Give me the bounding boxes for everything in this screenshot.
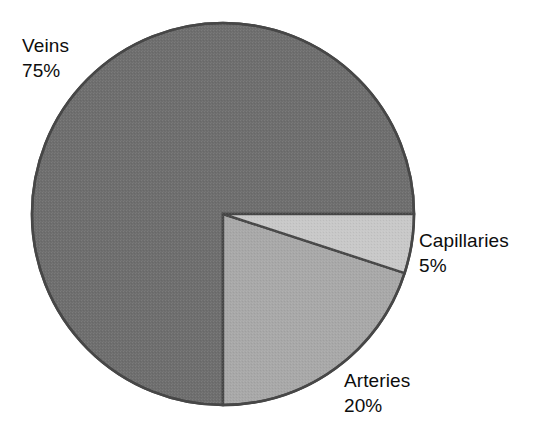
pie-label-capillaries: Capillaries 5% <box>419 228 509 278</box>
pie-label-arteries-name: Arteries <box>344 368 410 393</box>
pie-label-capillaries-name: Capillaries <box>419 228 509 253</box>
pie-label-capillaries-value: 5% <box>419 253 509 278</box>
pie-chart: Veins 75% Capillaries 5% Arteries 20% <box>0 0 539 440</box>
pie-label-arteries: Arteries 20% <box>344 368 410 418</box>
pie-chart-canvas <box>0 0 539 440</box>
pie-label-veins: Veins 75% <box>22 33 69 83</box>
pie-label-veins-name: Veins <box>22 33 69 58</box>
pie-label-arteries-value: 20% <box>344 393 410 418</box>
pie-label-veins-value: 75% <box>22 58 69 83</box>
